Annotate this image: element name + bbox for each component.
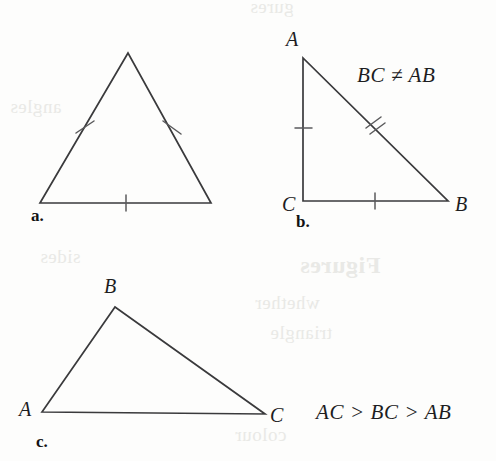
relation-text-b: BC ≠ AB bbox=[357, 63, 435, 88]
vertex-label-c-c: C bbox=[270, 404, 283, 427]
triangle-figure-page: gures Figures whether triangle angles co… bbox=[0, 0, 496, 461]
triangle-a-outline bbox=[40, 53, 211, 203]
tick-mark-a-left-side bbox=[76, 121, 94, 133]
vertex-label-c-a: A bbox=[19, 398, 31, 421]
triangle-c bbox=[42, 307, 265, 414]
vertex-label-b-b: B bbox=[455, 193, 467, 216]
part-label-a: a. bbox=[31, 206, 44, 226]
vertex-label-b-c: C bbox=[282, 193, 295, 216]
part-label-b: b. bbox=[296, 212, 310, 232]
relation-text-c: AC > BC > AB bbox=[316, 400, 452, 425]
triangle-c-outline bbox=[42, 307, 265, 414]
triangle-a bbox=[40, 53, 211, 211]
vertex-label-c-b: B bbox=[104, 275, 116, 298]
part-label-c: c. bbox=[36, 432, 48, 452]
vertex-label-b-a: A bbox=[286, 28, 298, 51]
